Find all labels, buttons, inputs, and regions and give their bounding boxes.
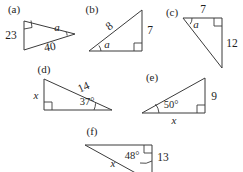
triangle-f-outline [85, 145, 152, 172]
part-label-a: (a) [8, 3, 21, 16]
part-label-c: (c) [166, 6, 179, 19]
side-label-e-right-leg: 9 [211, 90, 217, 102]
angle-label-f: 48° [125, 150, 140, 161]
side-label-c-top-leg: 7 [200, 3, 206, 15]
side-label-a-hypotenuse: 40 [43, 40, 56, 54]
side-label-d-hypotenuse: 14 [76, 79, 92, 95]
angle-arc-e [156, 104, 160, 113]
angle-label-e: 50° [164, 99, 179, 110]
side-label-a-left-leg: 23 [5, 29, 17, 41]
worksheet-page: (a) 23 40 a (b) 8 7 a (c) 7 12 a [0, 0, 243, 172]
figure-a: (a) 23 40 a [5, 3, 75, 54]
triangle-c-outline [183, 18, 222, 68]
right-angle-marker-d [44, 102, 52, 110]
side-label-b-right-leg: 7 [147, 24, 153, 36]
triangle-figures-svg: (a) 23 40 a (b) 8 7 a (c) 7 12 a [0, 0, 243, 172]
part-label-f: (f) [87, 125, 98, 138]
side-label-c-right-leg: 12 [226, 37, 238, 49]
side-label-f-right-leg: 13 [157, 151, 169, 163]
figure-d: (d) x 14 37° [33, 63, 112, 110]
figure-e: (e) 9 x 50° [142, 71, 217, 126]
right-angle-marker-e [197, 105, 205, 113]
right-angle-marker-b [134, 43, 142, 51]
angle-arc-c [190, 18, 192, 24]
angle-label-c: a [193, 18, 199, 30]
side-label-e-bottom-leg: x [171, 114, 177, 126]
part-label-e: (e) [146, 71, 159, 84]
angle-arc-f [140, 161, 152, 163]
figure-f: (f) 48° 13 x [85, 125, 169, 172]
angle-arc-b [99, 46, 101, 52]
right-angle-marker-f [144, 145, 152, 153]
part-label-b: (b) [86, 3, 99, 16]
side-label-f-hypotenuse: x [110, 157, 116, 169]
side-label-d-left-leg: x [33, 89, 39, 101]
figure-b: (b) 8 7 a [86, 3, 154, 51]
angle-label-d: 37° [80, 96, 95, 107]
angle-label-a: a [54, 21, 60, 33]
right-angle-marker-c [214, 18, 222, 26]
part-label-d: (d) [38, 63, 51, 76]
angle-label-b: a [104, 38, 110, 50]
figure-c: (c) 7 12 a [166, 3, 238, 68]
side-label-b-hypotenuse: 8 [103, 19, 115, 32]
